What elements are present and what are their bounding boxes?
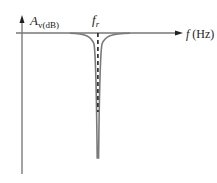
response-curve [70,33,130,158]
y-axis-label: Av(dB) [29,13,59,30]
notch-response-diagram: Av(dB) fr f (Hz) [0,0,217,183]
y-axis-arrowhead [20,15,25,23]
center-frequency-label: fr [92,12,100,29]
x-axis-label: f (Hz) [186,27,214,41]
x-axis-arrowhead [175,31,183,36]
